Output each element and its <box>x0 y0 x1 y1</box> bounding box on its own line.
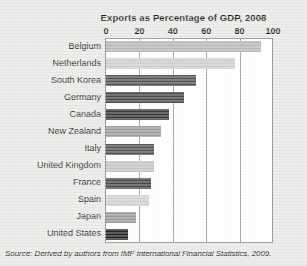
category-label: South Korea <box>1 76 101 85</box>
category-label: Spain <box>1 195 101 204</box>
x-axis-tick-labels: 020406080100 <box>0 26 307 38</box>
chart-row: South Korea <box>0 72 307 89</box>
bar <box>106 229 128 240</box>
bar <box>106 212 136 223</box>
category-label: Netherlands <box>1 59 101 68</box>
source-note: Source: Derived by authors from IMF Inte… <box>5 249 271 258</box>
chart-row: United Kingdom <box>0 158 307 175</box>
bar <box>106 144 154 155</box>
chart-rows: BelgiumNetherlandsSouth KoreaGermanyCana… <box>0 38 307 243</box>
bar-chart-figure: Exports as Percentage of GDP, 2008 02040… <box>0 0 307 266</box>
chart-row: United States <box>0 226 307 243</box>
chart-row: Germany <box>0 89 307 106</box>
category-label: Italy <box>1 144 101 153</box>
source-publication-title: IMF International Financial Statistics, <box>121 249 250 258</box>
bar <box>106 126 161 137</box>
chart-row: Japan <box>0 209 307 226</box>
bar <box>106 75 196 86</box>
x-tick-label: 0 <box>103 26 108 36</box>
bar <box>106 41 261 52</box>
chart-title: Exports as Percentage of GDP, 2008 <box>99 12 268 23</box>
x-tick-label: 20 <box>134 26 144 36</box>
category-label: Japan <box>1 212 101 221</box>
bar <box>106 92 184 103</box>
category-label: New Zealand <box>1 127 101 136</box>
x-tick-label: 80 <box>235 26 245 36</box>
chart-row: Italy <box>0 141 307 158</box>
category-label: Germany <box>1 93 101 102</box>
bar <box>106 178 151 189</box>
chart-row: Canada <box>0 106 307 123</box>
bar <box>106 58 235 69</box>
category-label: Belgium <box>1 42 101 51</box>
source-label: Source: <box>5 249 32 258</box>
category-label: France <box>1 178 101 187</box>
source-text-before: Derived by authors from <box>34 249 118 258</box>
bar <box>106 161 154 172</box>
category-label: United States <box>1 229 101 238</box>
x-tick-label: 40 <box>168 26 178 36</box>
x-tick-label: 60 <box>201 26 211 36</box>
source-year: 2009. <box>252 249 272 258</box>
chart-row: Belgium <box>0 38 307 55</box>
chart-row: New Zealand <box>0 123 307 140</box>
bar <box>106 109 169 120</box>
category-label: United Kingdom <box>1 161 101 170</box>
category-label: Canada <box>1 110 101 119</box>
chart-row: France <box>0 175 307 192</box>
chart-row: Netherlands <box>0 55 307 72</box>
x-tick-label: 100 <box>265 26 280 36</box>
bar <box>106 195 149 206</box>
chart-row: Spain <box>0 192 307 209</box>
